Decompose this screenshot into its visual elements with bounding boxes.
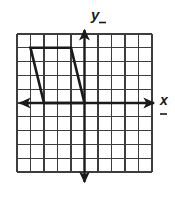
- y-axis-label: y: [90, 6, 100, 23]
- figure-screenshot: y x: [0, 0, 175, 204]
- x-axis-label: x: [159, 92, 169, 108]
- coordinate-plane-figure: y x: [0, 0, 175, 204]
